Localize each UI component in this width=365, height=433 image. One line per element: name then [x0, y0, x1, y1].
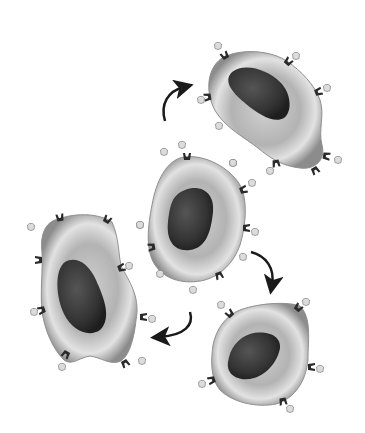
ligand-icon	[149, 316, 156, 323]
ligand-icon	[335, 157, 342, 164]
receptor-icon	[308, 363, 315, 371]
ligand-icon	[216, 123, 223, 130]
receptor-icon	[243, 224, 250, 232]
diagram-canvas	[0, 0, 365, 433]
ligand-icon	[324, 85, 331, 92]
ligand-icon	[179, 142, 186, 149]
ligand-icon	[190, 287, 197, 294]
cell-diagram	[0, 0, 365, 433]
cell-center	[137, 142, 259, 294]
ligand-icon	[199, 381, 206, 388]
ligand-icon	[252, 229, 259, 236]
ligand-icon	[137, 222, 144, 229]
ligand-icon	[317, 366, 324, 373]
arrow-center-to-bottom-right	[251, 252, 273, 285]
ligand-icon	[230, 160, 237, 167]
ligand-icon	[28, 224, 35, 231]
ligand-icon	[267, 168, 274, 175]
ligand-icon	[139, 358, 146, 365]
receptor-icon	[35, 256, 42, 264]
receptor-icon	[140, 313, 147, 321]
ligand-icon	[293, 53, 300, 60]
receptor-icon	[322, 152, 330, 161]
ligand-icon	[303, 299, 310, 306]
ligand-icon	[287, 406, 294, 413]
ligand-icon	[59, 364, 66, 371]
ligand-icon	[161, 149, 168, 156]
arrow-to-bottom-left	[160, 312, 191, 337]
ligand-icon	[218, 302, 225, 309]
ligand-icon	[157, 271, 164, 278]
ligand-icon	[249, 180, 256, 187]
ligand-icon	[198, 97, 205, 104]
ligand-icon	[215, 43, 222, 50]
ligand-icon	[31, 309, 38, 316]
ligand-icon	[126, 263, 133, 270]
arrow-center-to-top-right	[164, 87, 184, 121]
cell-bottom-left	[28, 213, 156, 370]
cell-bottom-right	[199, 299, 324, 413]
cell-top-right	[198, 43, 342, 176]
ligand-icon	[240, 254, 247, 261]
